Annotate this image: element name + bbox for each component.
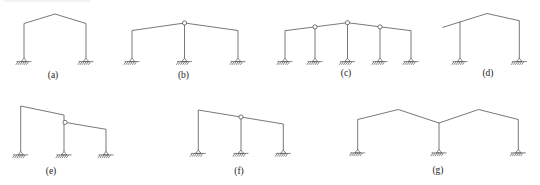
pin-support [56,152,72,159]
hinge-pin [345,21,349,25]
frame-label-e: (e) [46,166,57,177]
frame-member-line [132,23,238,58]
frame-member-line [443,14,519,59]
frame-label-b: (b) [178,70,189,81]
frame-e: (e) [13,106,114,177]
frame-label-d: (d) [482,68,493,79]
pin-support [403,58,419,65]
pin-support [307,58,323,65]
page: { "figure": { "background": "#ffffff", "… [0,0,540,185]
hinge-pin [378,25,382,29]
pin-support [16,58,32,65]
pin-support [230,58,246,65]
pin-support [350,150,366,157]
frame-member-line [285,23,411,59]
frame-g: (g) [350,110,526,177]
pin-support [339,58,355,65]
frame-label-a: (a) [48,70,59,81]
frame-member-line [24,14,86,58]
pin-support [275,150,291,157]
pin-support [124,58,140,65]
hinge-pin [182,21,186,25]
pin-support [233,150,249,157]
frame-label-c: (c) [341,68,352,79]
pin-support [13,152,29,159]
frame-d: (d) [443,14,527,79]
pin-support [277,58,293,65]
pin-support [98,152,114,159]
pin-support [372,58,388,65]
pin-support [190,150,206,157]
hinge-pin [313,25,317,29]
hinge-pin [63,120,67,124]
hinge-pin [239,115,243,119]
pin-support [452,58,468,65]
frame-label-f: (f) [234,166,244,177]
pin-support [511,58,527,65]
structural-frames-figure: (a)(b)(c)(d)(e)(f)(g) [0,0,540,185]
frame-member-line [21,106,64,152]
frame-member-line [358,110,519,150]
pin-support [510,150,526,157]
frame-c: (c) [277,21,419,79]
frame-a: (a) [16,14,94,81]
frame-f: (f) [190,110,291,177]
frame-member-line [65,122,106,151]
pin-support [176,58,192,65]
pin-support [431,150,447,157]
pin-support [78,58,94,65]
frame-label-g: (g) [432,165,443,176]
frame-b: (b) [124,21,246,81]
